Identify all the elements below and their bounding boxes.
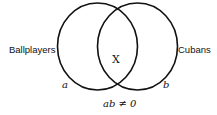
set-label-cubans: Cubans bbox=[178, 44, 211, 55]
set-label-ballplayers: Ballplayers bbox=[9, 44, 56, 55]
variable-b: b bbox=[163, 79, 169, 90]
venn-diagram: Ballplayers Cubans X a b ab ≠ 0 bbox=[0, 0, 217, 115]
variable-a: a bbox=[62, 79, 68, 90]
equation-label: ab ≠ 0 bbox=[103, 98, 137, 109]
venn-svg: Ballplayers Cubans X a b ab ≠ 0 bbox=[0, 0, 217, 115]
intersection-mark: X bbox=[112, 53, 120, 66]
